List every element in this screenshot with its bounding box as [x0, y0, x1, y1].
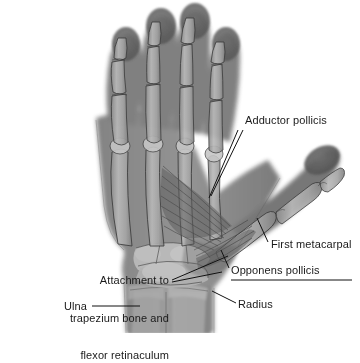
- label-attachment-trapezium: Attachment to trapezium bone and flexor …: [33, 249, 169, 363]
- label-adductor-pollicis: Adductor pollicis: [245, 114, 327, 127]
- label-opponens-pollicis: Opponens pollicis: [231, 264, 320, 277]
- label-attachment-line-1: Attachment to: [33, 274, 169, 287]
- label-radius: Radius: [238, 298, 273, 311]
- label-attachment-line-2: trapezium bone and: [33, 312, 169, 325]
- label-first-metacarpal: First metacarpal: [271, 238, 351, 251]
- label-attachment-line-3: flexor retinaculum: [33, 349, 169, 362]
- label-ulna: Ulna: [64, 300, 87, 313]
